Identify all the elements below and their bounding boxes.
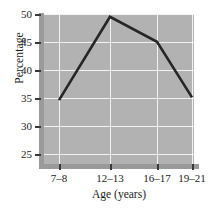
- x-tick-label-12-13: 12–13: [87, 172, 133, 184]
- chart-figure: Percentage 50 45 40 35 30 25: [0, 0, 218, 211]
- y-axis-title: Percentage: [11, 13, 27, 103]
- y-tick-mark-50: [35, 14, 41, 16]
- y-tick-label-25: 25: [8, 149, 32, 160]
- y-tick-mark-40: [35, 70, 41, 72]
- x-tick-label-19-21: 19–21: [169, 172, 215, 184]
- y-tick-label-50: 50: [8, 9, 32, 20]
- x-tick-mark-16-17: [157, 164, 159, 170]
- y-tick-mark-25: [35, 154, 41, 156]
- y-tick-label-30: 30: [8, 121, 32, 132]
- x-tick-label-7-8: 7–8: [36, 172, 82, 184]
- x-tick-mark-12-13: [110, 164, 112, 170]
- x-axis-title: Age (years): [44, 188, 194, 200]
- y-tick-mark-45: [35, 42, 41, 44]
- x-axis-spine: [39, 164, 199, 169]
- data-series-line: [44, 14, 194, 164]
- y-tick-label-45: 45: [8, 37, 32, 48]
- y-tick-mark-30: [35, 126, 41, 128]
- y-tick-label-35: 35: [8, 93, 32, 104]
- y-tick-label-40: 40: [8, 65, 32, 76]
- series-polyline: [59, 17, 192, 100]
- x-tick-mark-7-8: [59, 164, 61, 170]
- y-tick-mark-35: [35, 98, 41, 100]
- x-tick-mark-19-21: [192, 164, 194, 170]
